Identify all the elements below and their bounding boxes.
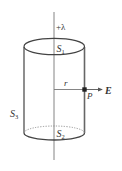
bottom-surface-label: S2 bbox=[57, 128, 65, 140]
line-charge-label: +λ bbox=[56, 22, 66, 32]
side-surface-label: S3 bbox=[10, 108, 18, 120]
top-surface-label: S1 bbox=[57, 43, 65, 55]
radius-label: r bbox=[64, 78, 68, 88]
diagram-canvas: +λ S1 r P E S3 S2 bbox=[0, 0, 122, 171]
point-label: P bbox=[86, 91, 93, 101]
gauss-cylinder-diagram: +λ S1 r P E S3 S2 bbox=[0, 0, 122, 171]
field-label: E bbox=[104, 85, 112, 96]
